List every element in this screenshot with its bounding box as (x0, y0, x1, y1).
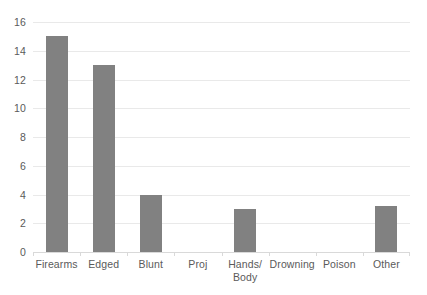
x-axis-label-poison: Poison (323, 258, 356, 271)
y-axis-tick-12: 12 (14, 74, 26, 85)
x-axis-tick (316, 252, 317, 256)
x-axis-label-edged: Edged (88, 258, 119, 271)
bar-edged[interactable] (93, 65, 115, 252)
x-axis-tick (409, 252, 410, 256)
bar-slot-other (363, 22, 410, 252)
bar-slot-poison (316, 22, 363, 252)
x-axis-tick (222, 252, 223, 256)
y-axis-tick-6: 6 (20, 161, 26, 172)
bar-chart: 16 14 12 10 8 6 4 2 0 (0, 0, 427, 295)
bar-slot-hands-body (222, 22, 269, 252)
y-axis-tick-0: 0 (20, 247, 26, 258)
x-axis-tick (33, 252, 34, 256)
x-axis-label-other: Other (373, 258, 400, 271)
x-axis-label-firearms: Firearms (35, 258, 77, 271)
x-axis-tick (80, 252, 81, 256)
x-axis-labels: Firearms Edged Blunt Proj Hands/ Body Dr… (33, 258, 410, 294)
y-axis-tick-4: 4 (20, 189, 26, 200)
bar-slot-blunt (127, 22, 174, 252)
y-axis-tick-8: 8 (20, 132, 26, 143)
y-axis-tick-2: 2 (20, 218, 26, 229)
bar-slot-firearms (33, 22, 80, 252)
x-axis-label-proj: Proj (188, 258, 207, 271)
bar-slot-edged (80, 22, 127, 252)
x-axis-tick (174, 252, 175, 256)
y-axis-tick-10: 10 (14, 103, 26, 114)
x-axis-label-blunt: Blunt (139, 258, 163, 271)
bar-slot-proj (174, 22, 221, 252)
x-axis-ticks (33, 252, 410, 256)
y-axis-tick-16: 16 (14, 17, 26, 28)
x-axis-tick (127, 252, 128, 256)
bar-slot-drowning (269, 22, 316, 252)
x-axis-tick (363, 252, 364, 256)
x-axis-tick (269, 252, 270, 256)
bar-firearms[interactable] (46, 36, 68, 252)
bars-layer (33, 22, 410, 252)
bar-hands-body[interactable] (234, 209, 256, 252)
bar-other[interactable] (375, 206, 397, 252)
x-axis-label-drowning: Drowning (270, 258, 315, 271)
y-axis-labels: 16 14 12 10 8 6 4 2 0 (0, 0, 33, 295)
y-axis-tick-14: 14 (14, 46, 26, 57)
x-axis-label-hands-body: Hands/ Body (228, 258, 262, 283)
bar-blunt[interactable] (140, 195, 162, 253)
